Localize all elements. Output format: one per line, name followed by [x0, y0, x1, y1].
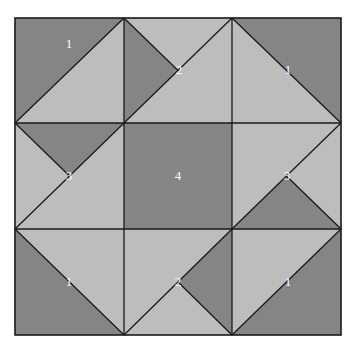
cell-2-0-label: 1 [66, 274, 73, 289]
cell-2-1-label: 2 [175, 274, 182, 289]
cell-2-2-label: 1 [285, 274, 292, 289]
cell-0-1-label: 2 [176, 62, 183, 77]
cell-0-2-label: 1 [285, 62, 292, 77]
cell-1-0-label: 3 [66, 168, 73, 183]
cell-1-2-label: 3 [284, 168, 291, 183]
cell-1-1-label: 4 [175, 168, 182, 183]
quilt-block-diagram: 1 2 1 3 4 3 1 2 1 [0, 0, 354, 348]
cell-0-0-label: 1 [66, 36, 73, 51]
